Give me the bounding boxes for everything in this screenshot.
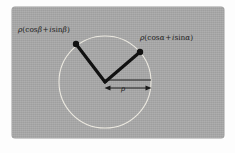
label-alpha-sin: sin bbox=[174, 33, 185, 42]
label-alpha-cos: cos bbox=[147, 33, 159, 42]
label-alpha-rparen: ) bbox=[190, 33, 193, 42]
label-alpha-plus: + bbox=[165, 33, 172, 42]
rho-measure-arrow bbox=[105, 86, 152, 91]
label-beta-expression: ρ(cosβ+isinβ) bbox=[18, 26, 70, 33]
label-beta-sin: sin bbox=[52, 25, 63, 34]
label-beta-rparen: ) bbox=[67, 25, 70, 34]
figure-root: ρ(cosβ+isinβ) ρ(cosα+isinα) ρ bbox=[0, 0, 235, 153]
vector-alpha bbox=[105, 49, 143, 82]
label-beta-cos: cos bbox=[25, 25, 37, 34]
alpha-point-dot bbox=[137, 49, 143, 55]
label-rho-measure: ρ bbox=[121, 84, 125, 93]
vector-beta bbox=[73, 41, 105, 82]
diagram-canvas bbox=[0, 0, 235, 153]
beta-point-dot bbox=[73, 41, 79, 47]
label-alpha-arg1: α bbox=[160, 33, 165, 42]
label-alpha-expression: ρ(cosα+isinα) bbox=[140, 34, 193, 41]
